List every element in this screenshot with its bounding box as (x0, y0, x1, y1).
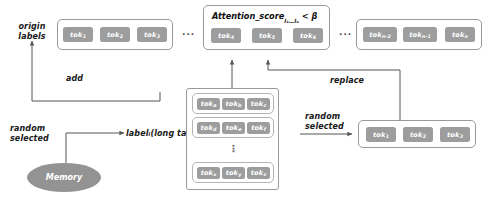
token-base: tok (369, 31, 381, 39)
token-sub: z (263, 172, 266, 177)
token-base: tok (300, 32, 312, 40)
token-chip: tok3 (440, 127, 470, 142)
diagram-canvas: origin labels tok1 tok2 tok3 ··· Attenti… (0, 0, 491, 203)
token-base: tok (447, 131, 459, 139)
token-base: tok (218, 32, 230, 40)
token-chip: tok3 (137, 27, 167, 42)
random-selected-right-label: random selected (305, 112, 357, 131)
token-base: tok (226, 100, 238, 108)
replace-label: replace (330, 76, 364, 86)
ellipsis-between-box-a-and-b: ··· (182, 29, 195, 39)
wire-add-path (32, 62, 160, 101)
token-chip: tokb (222, 98, 245, 110)
wire-replace (268, 60, 400, 120)
wire-memory-to-label (66, 133, 124, 163)
token-base: tok (201, 169, 213, 177)
token-chip: tokn-1 (403, 27, 437, 42)
ellipsis-between-box-b-and-c: ··· (339, 29, 352, 39)
token-chip: tokc (247, 98, 270, 110)
token-chip: tokf (247, 122, 270, 134)
add-label: add (66, 74, 83, 84)
token-chip: toka (197, 98, 220, 110)
token-base: tok (226, 124, 238, 132)
token-sub: 2 (120, 34, 123, 39)
token-chip: tok4 (211, 28, 241, 43)
token-chip: toky (222, 167, 245, 179)
vertical-ellipsis: ⋮ (187, 147, 280, 151)
token-base: tok (107, 31, 119, 39)
candidate-token-grid: toka tokb tokc tokd toke tokf ⋮ tokx tok… (186, 88, 279, 190)
token-sub: 4 (231, 35, 234, 40)
token-base: tok (409, 31, 421, 39)
token-sub: e (238, 127, 241, 132)
token-sub: 5 (272, 35, 275, 40)
token-sub: x (213, 172, 216, 177)
result-token-box: tok1 tok2 tok3 (358, 120, 476, 148)
token-sub: 1 (83, 34, 86, 39)
token-chip: tok1 (366, 127, 396, 142)
token-sequence-box-a: tok1 tok2 tok3 (57, 19, 173, 50)
token-sub: y (238, 172, 241, 177)
token-sequence-box-c: tokn-2 tokn-1 tokn (356, 19, 482, 50)
token-sequence-box-b: Attention_scorel₁…lₒ < β tok4 tok5 tok6 (203, 5, 330, 50)
token-sub: 3 (460, 134, 463, 139)
token-base: tok (70, 31, 82, 39)
token-chip: tokn-2 (363, 27, 397, 42)
token-base: tok (144, 31, 156, 39)
token-sub: c (263, 103, 266, 108)
token-chip: tok1 (63, 27, 93, 42)
token-base: tok (251, 124, 263, 132)
attention-score-text: Attention_score (212, 11, 284, 21)
token-chip: tok6 (293, 28, 323, 43)
token-chip: tok2 (100, 27, 130, 42)
token-chip: tokd (197, 122, 220, 134)
token-sub: n-1 (422, 34, 431, 39)
token-sub: 2 (423, 134, 426, 139)
attention-score-subscript: l₁…lₒ (284, 18, 299, 24)
candidate-row: tokx toky tokz (192, 162, 274, 183)
token-sub: b (238, 103, 242, 108)
token-base: tok (452, 31, 464, 39)
token-sub: f (264, 127, 266, 132)
candidate-row: tokd toke tokf (192, 117, 274, 138)
token-base: tok (259, 32, 271, 40)
token-base: tok (251, 100, 263, 108)
token-sub: 1 (386, 134, 389, 139)
token-sub: d (213, 127, 217, 132)
token-sub: 3 (157, 34, 160, 39)
token-base: tok (201, 100, 213, 108)
candidate-row: toka tokb tokc (192, 93, 274, 114)
token-base: tok (226, 169, 238, 177)
token-sub: n (465, 34, 469, 39)
token-sub: n-2 (382, 34, 391, 39)
attention-score-comparison: < β (302, 11, 318, 21)
token-chip: tokn (445, 27, 475, 42)
token-sub: a (213, 103, 216, 108)
token-chip: tokx (197, 167, 220, 179)
token-chip: tokz (247, 167, 270, 179)
token-base: tok (251, 169, 263, 177)
memory-node: Memory (27, 163, 101, 192)
token-sub: 6 (313, 35, 316, 40)
token-chip: tok5 (252, 28, 282, 43)
attention-score-formula: Attention_scorel₁…lₒ < β (212, 11, 317, 23)
token-base: tok (410, 131, 422, 139)
token-chip: tok2 (403, 127, 433, 142)
token-base: tok (201, 124, 213, 132)
token-chip: toke (222, 122, 245, 134)
origin-labels-text: origin labels (12, 22, 52, 41)
random-selected-left-label: random selected (10, 124, 62, 143)
token-base: tok (373, 131, 385, 139)
